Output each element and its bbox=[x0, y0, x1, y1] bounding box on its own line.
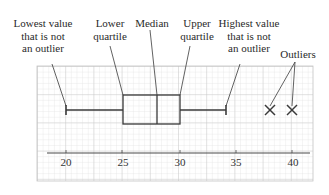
label-line: Highest value bbox=[218, 17, 280, 30]
tick-label: 30 bbox=[175, 156, 187, 168]
label-line: that is not bbox=[12, 30, 74, 43]
label-line: an outlier bbox=[12, 42, 74, 55]
label-line: quartile bbox=[175, 30, 219, 43]
label-lower-quartile: Lower quartile bbox=[88, 17, 132, 42]
tick-label: 25 bbox=[118, 156, 130, 168]
label-line: Lower bbox=[88, 17, 132, 30]
label-upper-quartile: Upper quartile bbox=[175, 17, 219, 42]
label-line: Median bbox=[132, 17, 172, 30]
label-line: that is not bbox=[218, 30, 280, 43]
label-line: Outliers bbox=[276, 48, 320, 61]
label-line: Upper bbox=[175, 17, 219, 30]
tick-label: 20 bbox=[61, 156, 73, 168]
label-highest-value: Highest value that is not an outlier bbox=[218, 17, 280, 55]
tick-label: 35 bbox=[231, 156, 243, 168]
label-line: an outlier bbox=[218, 42, 280, 55]
label-outliers: Outliers bbox=[276, 48, 320, 61]
label-lowest-value: Lowest value that is not an outlier bbox=[12, 17, 74, 55]
label-line: Lowest value bbox=[12, 17, 74, 30]
tick-label: 40 bbox=[288, 156, 300, 168]
label-median: Median bbox=[132, 17, 172, 30]
label-line: quartile bbox=[88, 30, 132, 43]
